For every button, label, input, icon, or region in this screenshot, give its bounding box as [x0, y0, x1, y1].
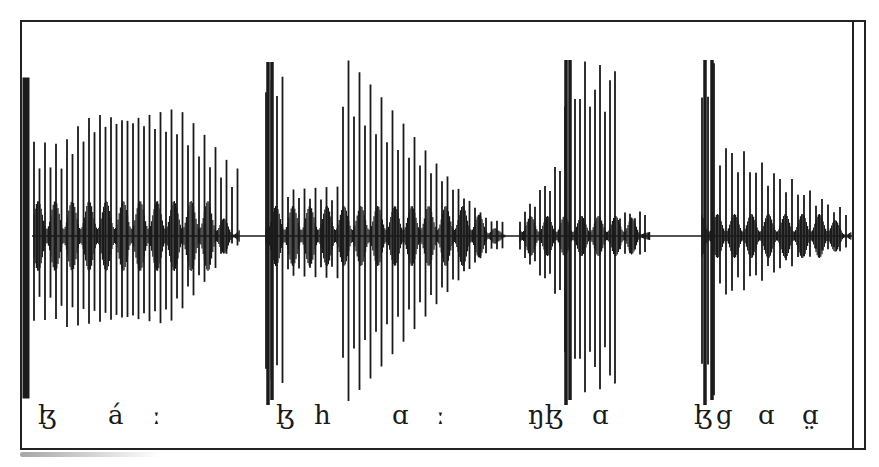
phone-label: á [108, 402, 124, 428]
phone-label: ɑ̤ [802, 402, 819, 428]
phone-label: ː [152, 402, 161, 428]
phone-label: ŋɮ [528, 402, 563, 428]
phone-label: g [716, 402, 733, 428]
waveform-plot [0, 0, 879, 467]
phone-label: ɑ [392, 402, 409, 428]
phone-label: ɑ [592, 402, 609, 428]
phone-label: h [314, 402, 331, 428]
phone-label: ɮ [694, 402, 712, 428]
phone-label: ɮ [38, 402, 56, 428]
phone-label: ɮ [276, 402, 294, 428]
phone-label: ː [436, 402, 445, 428]
phone-label: ɑ [758, 402, 775, 428]
